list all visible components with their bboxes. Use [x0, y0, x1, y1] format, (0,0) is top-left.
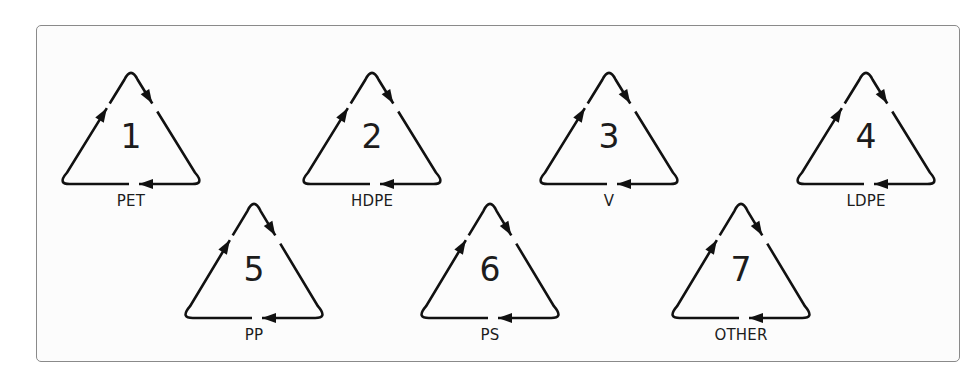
resin-code-label: OTHER	[661, 326, 821, 344]
recycling-symbol-4: 4 LDPE	[786, 63, 946, 213]
resin-code-number: 1	[51, 117, 211, 156]
recycling-symbol-2: 2 HDPE	[292, 63, 452, 213]
recycling-symbol-5: 5 PP	[174, 194, 334, 344]
resin-code-number: 4	[786, 117, 946, 156]
resin-code-number: 6	[410, 250, 570, 289]
recycling-symbol-7: 7 OTHER	[661, 194, 821, 344]
recycling-symbol-1: 1 PET	[51, 63, 211, 213]
recycling-symbol-3: 3 V	[529, 63, 689, 213]
resin-code-label: PS	[410, 326, 570, 344]
recycling-symbol-6: 6 PS	[410, 194, 570, 344]
resin-code-number: 7	[661, 250, 821, 289]
resin-code-number: 3	[529, 117, 689, 156]
resin-code-label: PP	[174, 326, 334, 344]
resin-code-number: 2	[292, 117, 452, 156]
resin-code-number: 5	[174, 250, 334, 289]
